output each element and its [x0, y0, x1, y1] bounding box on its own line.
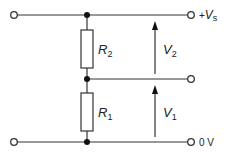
resistor-r1: [81, 93, 93, 131]
terminal-middle-right: [188, 76, 195, 83]
junction-dot-top: [84, 12, 90, 18]
terminal-top-left: [11, 12, 18, 19]
junction-dot-middle: [84, 76, 90, 82]
label-supply-rail: +Vs: [199, 8, 218, 23]
junction-dot-bottom: [84, 139, 90, 145]
label-ground-rail: 0 V: [199, 137, 214, 148]
v1-arrow-head-icon: [152, 85, 158, 94]
label-r1: R1: [98, 105, 112, 122]
terminal-bottom-left: [11, 139, 18, 146]
potential-divider-diagram: R2 R1 V2 V1 +Vs 0 V: [0, 0, 230, 163]
label-r2: R2: [98, 42, 112, 59]
v2-arrow-head-icon: [152, 21, 158, 30]
label-v1: V1: [163, 105, 177, 122]
terminal-bottom-right: [188, 139, 195, 146]
resistor-r2: [81, 30, 93, 68]
terminal-top-right: [188, 12, 195, 19]
label-v2: V2: [163, 42, 177, 59]
